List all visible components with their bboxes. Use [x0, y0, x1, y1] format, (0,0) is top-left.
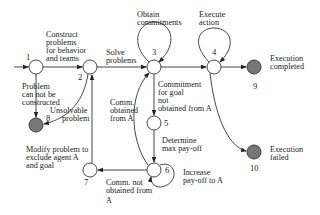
node-3	[147, 60, 161, 74]
label-execution-completed: Execution completed	[270, 54, 305, 71]
node-5	[147, 116, 161, 130]
edge-6-3	[134, 73, 149, 165]
label-obtain-commitments: Obtain commitments	[137, 10, 182, 27]
node-1	[29, 60, 43, 74]
node-7	[83, 163, 97, 177]
node-6	[147, 163, 161, 177]
label-construct-problems: Construct problems for behavior and team…	[46, 30, 88, 63]
label-increase-payoff: Increase pay-off to A	[183, 168, 223, 185]
label-execute-action: Execute action	[199, 10, 227, 27]
node-3-number: 3	[152, 47, 156, 57]
node-8	[29, 118, 43, 132]
label-execution-failed: Execution failed	[270, 145, 305, 162]
label-determine-max-payoff: Determine max pay-off	[162, 136, 202, 153]
node-2-number: 2	[78, 72, 82, 82]
node-7-number: 7	[84, 177, 88, 187]
node-10	[247, 145, 261, 159]
node-10-number: 10	[250, 163, 259, 173]
label-modify-problem: Modify problem to exclude agent A and go…	[26, 145, 90, 170]
node-numbers: 1 2 3 4 5 6 7 8 9 10	[26, 47, 259, 187]
node-6-number: 6	[165, 165, 169, 175]
edge-4-10	[210, 73, 246, 151]
node-5-number: 5	[164, 118, 168, 128]
label-commitment-not-obtained: Commitment for goal not obtained from A	[158, 80, 212, 113]
label-problem-cannot-be-constructed: Problem can not be constructed	[22, 82, 60, 107]
node-4-number: 4	[212, 47, 217, 57]
node-4	[207, 60, 221, 74]
node-9	[247, 60, 261, 74]
edge-labels: Construct problems for behavior and team…	[22, 10, 305, 205]
node-1-number: 1	[26, 52, 30, 62]
label-comm-obtained-from-a: Comm. obtained from A	[110, 98, 140, 123]
node-2	[83, 60, 97, 74]
node-9-number: 9	[253, 81, 257, 91]
label-solve-problems: Solve problems	[106, 48, 136, 65]
state-diagram: 1 2 3 4 5 6 7 8 9 10 Construct problems …	[0, 0, 320, 215]
label-comm-not-obtained: Comm. not obtained from A	[106, 178, 154, 205]
